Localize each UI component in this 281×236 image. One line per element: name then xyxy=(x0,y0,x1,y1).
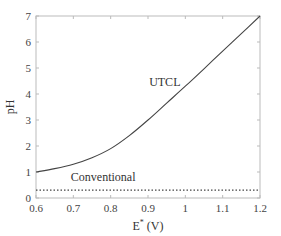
annotations: UTCLConventional xyxy=(71,75,181,184)
y-tick-label: 7 xyxy=(26,10,32,22)
x-tick-label: 0.6 xyxy=(29,202,43,214)
annotation-conventional: Conventional xyxy=(71,170,136,184)
y-axis-title: pH xyxy=(3,99,17,114)
x-tick-label: 0.7 xyxy=(66,202,80,214)
x-tick-label: 0.8 xyxy=(104,202,118,214)
y-tick-label: 0 xyxy=(26,192,32,204)
series-utcl-line xyxy=(36,16,260,172)
x-tick-label: 1.2 xyxy=(253,202,267,214)
y-tick-labels: 01234567 xyxy=(26,10,32,204)
y-tick-label: 4 xyxy=(26,88,32,100)
y-tick-label: 1 xyxy=(26,166,32,178)
annotation-utcl: UTCL xyxy=(149,75,180,89)
x-tick-labels: 0.60.70.80.911.11.2 xyxy=(29,202,267,214)
x-tick-label: 0.9 xyxy=(141,202,155,214)
plot-area xyxy=(36,16,260,198)
y-tick-label: 2 xyxy=(26,140,32,152)
axis-ticks xyxy=(36,16,260,198)
x-axis-title: E* (V) xyxy=(132,218,163,233)
data-series xyxy=(36,16,260,190)
x-tick-label: 1.1 xyxy=(216,202,230,214)
y-tick-label: 6 xyxy=(26,36,32,48)
chart: 0.60.70.80.911.11.2 01234567 UTCLConvent… xyxy=(0,0,281,236)
x-tick-label: 1 xyxy=(183,202,189,214)
y-tick-label: 3 xyxy=(26,114,32,126)
y-tick-label: 5 xyxy=(26,62,32,74)
plot-frame xyxy=(36,16,260,198)
